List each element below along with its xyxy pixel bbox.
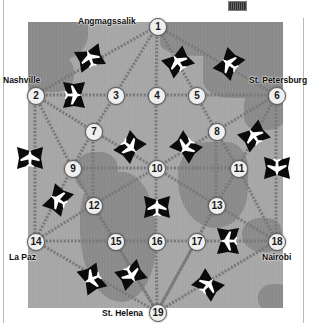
graph-node-16[interactable]: 16 <box>148 233 166 251</box>
plane-icon[interactable] <box>144 196 170 218</box>
graph-node-18[interactable]: 18 <box>268 233 286 251</box>
plane-icon[interactable] <box>74 43 106 73</box>
graph-node-5[interactable]: 5 <box>188 87 206 105</box>
graph-node-4[interactable]: 4 <box>148 87 166 105</box>
plane-icon[interactable] <box>237 120 271 153</box>
graph-node-12[interactable]: 12 <box>85 197 103 215</box>
plane-icon[interactable] <box>17 147 43 169</box>
graph-node-17[interactable]: 17 <box>188 233 206 251</box>
graph-node-13[interactable]: 13 <box>208 197 226 215</box>
city-label-2: Nashville <box>3 75 40 85</box>
plane-icon[interactable] <box>191 268 225 302</box>
graph-node-6[interactable]: 6 <box>268 87 286 105</box>
graph-node-15[interactable]: 15 <box>107 233 125 251</box>
route-edge[interactable] <box>156 241 157 312</box>
graph-node-1[interactable]: 1 <box>149 18 167 36</box>
graph-node-7[interactable]: 7 <box>85 123 103 141</box>
city-label-19: St. Helena <box>102 308 143 318</box>
plane-icon[interactable] <box>77 263 108 296</box>
plane-icon[interactable] <box>42 183 74 217</box>
city-label-6: St. Petersburg <box>249 75 307 85</box>
route-edge[interactable] <box>156 26 157 95</box>
graph-node-14[interactable]: 14 <box>27 233 45 251</box>
city-label-1: Angmagssalik <box>78 16 136 26</box>
city-label-18: Nairobi <box>262 252 291 262</box>
graph-node-11[interactable]: 11 <box>230 160 248 178</box>
graph-node-2[interactable]: 2 <box>27 87 45 105</box>
route-edge[interactable] <box>216 95 276 131</box>
route-edge[interactable] <box>93 205 157 312</box>
plane-icon[interactable] <box>63 82 85 108</box>
city-label-14: La Paz <box>9 252 36 262</box>
screenshot-root: 12345678910111213141516171819 Angmagssal… <box>0 0 310 323</box>
graph-node-8[interactable]: 8 <box>208 123 226 141</box>
plane-icon[interactable] <box>264 157 290 179</box>
plane-icon[interactable] <box>217 228 239 254</box>
graph-node-3[interactable]: 3 <box>107 87 125 105</box>
plane-icon[interactable] <box>113 130 147 164</box>
plane-icon[interactable] <box>169 130 203 164</box>
graph-node-19[interactable]: 19 <box>149 304 167 322</box>
graph-node-9[interactable]: 9 <box>64 160 82 178</box>
plane-icon[interactable] <box>161 46 195 79</box>
graph-node-10[interactable]: 10 <box>148 160 166 178</box>
